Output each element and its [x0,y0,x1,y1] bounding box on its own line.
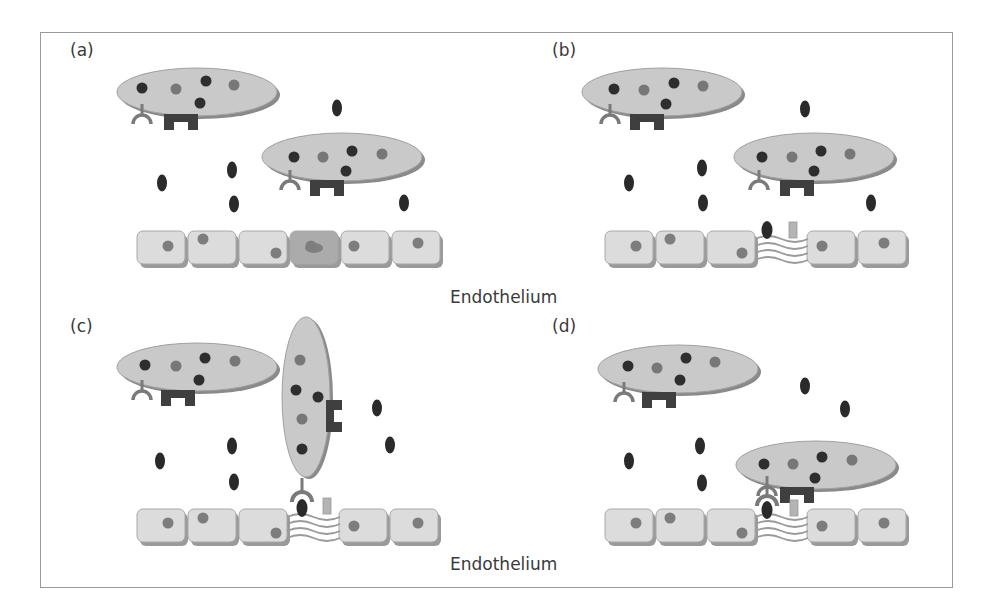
panel-a [117,68,443,268]
granule-icon [377,149,388,160]
adhesion-block-icon [780,180,814,196]
chemokine-molecule-icon [157,175,167,192]
granule-icon [639,85,650,96]
chemokine-molecule-icon [155,453,165,470]
granule-icon [623,361,634,372]
granule-icon [681,353,692,364]
chemokine-molecule-icon [332,100,342,117]
granule-icon [810,473,821,484]
granule-icon [318,152,329,163]
endothelium-caption-bottom: Endothelium [450,554,557,574]
granule-icon [297,444,308,455]
granule-icon [313,392,324,403]
granule-icon [230,356,241,367]
endothelial-cell [239,231,290,268]
endothelial-cell [392,231,443,268]
granule-icon [297,414,308,425]
bound-chemokine-icon [762,221,773,239]
chemokine-molecule-icon [624,175,634,192]
nucleus-icon [737,528,748,539]
granule-icon [609,84,620,95]
granule-icon [229,80,240,91]
opened-junction [755,236,808,263]
granule-icon [675,375,686,386]
ligand-rect-icon [789,222,797,238]
adhesion-block-icon [310,180,344,196]
nucleus-icon [349,241,360,252]
chemokine-molecule-icon [697,160,707,177]
chemokine-molecule-icon [227,438,237,455]
granule-icon [289,152,300,163]
leukocyte-cell [582,68,745,130]
endothelial-cell [188,231,239,268]
chemokine-molecule-icon [624,453,634,470]
endothelial-cell [656,509,707,546]
nucleus-icon [413,518,424,529]
adhesion-block-icon [630,114,664,130]
granule-icon [652,363,663,374]
opened-junction [755,514,808,541]
granule-icon [817,452,828,463]
endothelial-cell [707,509,758,546]
granule-icon [171,84,182,95]
opened-junction [287,514,340,541]
granule-icon [295,355,306,366]
granule-icon [816,146,827,157]
granule-icon [347,146,358,157]
granule-icon [809,166,820,177]
endothelial-cell [137,509,188,546]
granule-icon [291,385,302,396]
nucleus-icon [271,248,282,259]
leukocyte-cell [117,68,280,130]
nucleus-icon [349,521,360,532]
leukocyte-cell [736,441,899,503]
chemokine-molecule-icon [399,195,409,212]
endothelial-cell [239,509,290,546]
panel-label-b: (b) [552,40,576,60]
endothelial-cell [188,509,239,546]
panel-d [598,345,909,546]
endothelial-cell [137,231,188,268]
granule-icon [195,98,206,109]
chemokine-molecule-icon [227,162,237,179]
endothelial-cell [341,231,392,268]
nucleus-icon [817,521,828,532]
granule-icon [200,353,211,364]
granule-icon [845,149,856,160]
granule-icon [140,360,151,371]
ligand-rect-icon [790,500,798,516]
nucleus-icon [665,513,676,524]
panel-label-c: (c) [70,316,93,336]
bound-chemokine-icon [762,501,773,519]
granule-icon [137,83,148,94]
panel-label-a: (a) [70,40,94,60]
granule-icon [847,455,858,466]
nucleus-icon [271,528,282,539]
chemokine-molecule-icon [800,378,810,395]
endothelial-cell [605,231,656,268]
granule-icon [171,361,182,372]
chemokine-molecule-icon [840,401,850,418]
granule-icon [661,99,672,110]
chemokine-molecule-icon [695,438,705,455]
panel-b [582,68,909,268]
bound-chemokine-icon [297,499,308,517]
nucleus-icon [665,234,676,245]
adhesion-block-icon [164,114,198,130]
endothelial-cell [807,509,858,546]
granule-icon [788,459,799,470]
chemokine-molecule-icon [385,437,395,454]
nucleus-icon [306,241,317,252]
granule-icon [710,357,721,368]
nucleus-icon [879,238,890,249]
chemokine-molecule-icon [229,474,239,491]
panel-label-d: (d) [552,316,576,336]
granule-icon [787,152,798,163]
leukocyte-cell [734,133,897,196]
endothelial-cell [605,509,656,546]
nucleus-icon [413,238,424,249]
nucleus-icon [198,513,209,524]
endothelial-cell [656,231,707,268]
endothelial-cell [858,231,909,268]
nucleus-icon [879,518,890,529]
